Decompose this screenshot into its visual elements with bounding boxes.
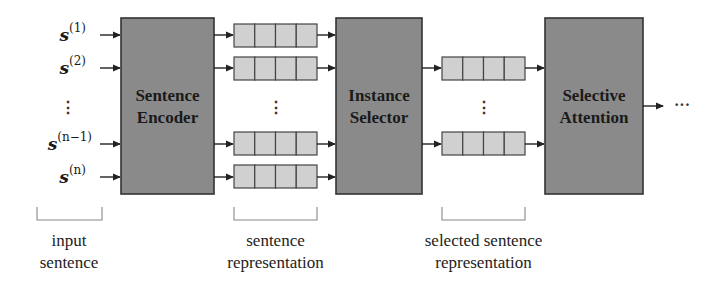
caption-selected-line2: representation xyxy=(435,253,532,272)
caption-selected: selected sentence representation xyxy=(425,231,543,272)
input-label-n: s(n) xyxy=(58,163,86,187)
selected-representation-vectors: ⋮ xyxy=(442,57,525,155)
selector-input-arrows xyxy=(317,35,335,177)
pipeline-diagram: s(1) s(2) ⋮ s(n−1) s(n) Sentence Encoder… xyxy=(0,0,714,289)
vector-1 xyxy=(234,24,317,47)
input-label-2: s(2) xyxy=(58,54,86,78)
output-ellipsis: ··· xyxy=(674,96,690,113)
input-labels: s(1) s(2) ⋮ s(n−1) s(n) xyxy=(47,21,92,187)
caption-input-line1: input xyxy=(52,231,87,250)
selected-ellipsis: ⋮ xyxy=(476,99,492,116)
selected-bracket xyxy=(442,207,525,220)
representation-bracket xyxy=(234,207,317,220)
selector-label-line2: Selector xyxy=(350,108,409,127)
encoder-output-arrows xyxy=(214,35,233,177)
input-label-n-minus-1: s(n−1) xyxy=(47,130,92,154)
input-ellipsis: ⋮ xyxy=(60,99,76,116)
selective-attention-block: Selective Attention xyxy=(545,18,643,194)
attention-label-line1: Selective xyxy=(562,86,626,105)
selector-output-arrows xyxy=(422,68,441,144)
caption-representation-line2: representation xyxy=(227,253,324,272)
input-bracket xyxy=(37,207,102,220)
sentence-representation-vectors: ⋮ xyxy=(234,24,317,188)
selected-vector-2 xyxy=(442,132,525,155)
encoder-label-line2: Encoder xyxy=(137,108,199,127)
caption-representation: sentence representation xyxy=(227,231,324,272)
vector-n-minus-1 xyxy=(234,132,317,155)
input-arrows xyxy=(100,35,120,177)
selector-label-line1: Instance xyxy=(348,86,410,105)
attention-input-arrows xyxy=(525,68,544,144)
vector-2 xyxy=(234,57,317,80)
vector-n xyxy=(234,165,317,188)
instance-selector-block: Instance Selector xyxy=(336,18,422,194)
input-label-1: s(1) xyxy=(58,21,86,45)
caption-input-line2: sentence xyxy=(40,253,99,272)
caption-representation-line1: sentence xyxy=(246,231,305,250)
sentence-encoder-block: Sentence Encoder xyxy=(121,18,214,194)
selected-vector-1 xyxy=(442,57,525,80)
attention-label-line2: Attention xyxy=(560,108,629,127)
caption-selected-line1: selected sentence xyxy=(425,231,543,250)
caption-input: input sentence xyxy=(40,231,99,272)
encoder-label-line1: Sentence xyxy=(135,86,200,105)
representation-ellipsis: ⋮ xyxy=(268,99,284,116)
